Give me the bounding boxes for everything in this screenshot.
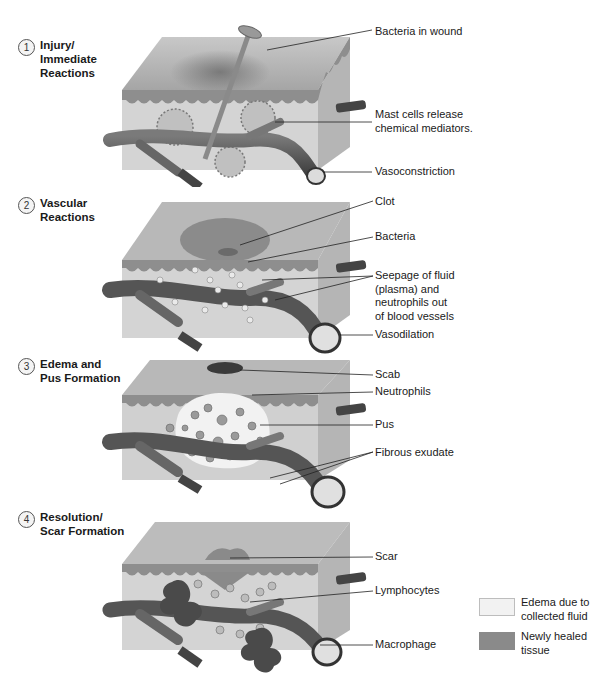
- callout-scab: Scab: [375, 368, 400, 382]
- callout-vasodilation: Vasodilation: [375, 328, 434, 342]
- legend-item-healed-tissue: Newly healed tissue: [479, 630, 587, 657]
- callout-mast-cells: Mast cells release chemical mediators.: [375, 108, 473, 135]
- callout-neutrophils: Neutrophils: [375, 385, 431, 399]
- callout-bacteria: Bacteria: [375, 230, 415, 244]
- callout-vasoconstriction: Vasoconstriction: [375, 165, 455, 179]
- callout-macrophage: Macrophage: [375, 638, 436, 652]
- callout-lymphocytes: Lymphocytes: [375, 584, 439, 598]
- callout-fibrous-exudate: Fibrous exudate: [375, 446, 454, 460]
- callout-seepage: Seepage of fluid (plasma) and neutrophil…: [375, 269, 455, 323]
- legend-label: Newly healed tissue: [521, 630, 587, 657]
- callout-clot: Clot: [375, 195, 395, 209]
- legend-swatch-healed: [479, 632, 515, 650]
- callout-pus: Pus: [375, 418, 394, 432]
- callout-bacteria-in-wound: Bacteria in wound: [375, 25, 462, 39]
- legend-item-edema: Edema due to collected fluid: [479, 596, 590, 623]
- legend-label: Edema due to collected fluid: [521, 596, 590, 623]
- legend-swatch-edema: [479, 598, 515, 616]
- leader-lines: [0, 0, 602, 678]
- callout-scar: Scar: [375, 550, 398, 564]
